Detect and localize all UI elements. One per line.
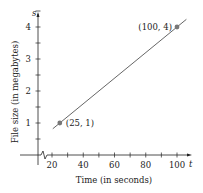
x-axis-var: t [189, 159, 193, 169]
x-axis-title: Time (in seconds) [76, 175, 152, 185]
x-tick-label: 60 [109, 160, 120, 170]
y-tick-label: 1 [26, 118, 31, 128]
y-tick-labels: 1234 [26, 22, 31, 128]
data-point [175, 25, 180, 30]
y-axis-title: File size (in megabytes) [10, 41, 20, 144]
data-point [57, 121, 62, 126]
y-tick-label: 3 [26, 54, 31, 64]
x-tick-label: 40 [78, 160, 89, 170]
data-line [53, 19, 187, 128]
plot-area: (25, 1)(100, 4) [53, 19, 187, 128]
x-tick-labels: 20406080100 [47, 160, 186, 170]
y-axis-var: s [32, 8, 37, 18]
axis-break-icon [41, 151, 47, 159]
x-tick-label: 80 [140, 160, 151, 170]
chart: 20406080100 1234 s t Time (in seconds) F… [0, 0, 203, 193]
y-axis-arrow-icon [37, 12, 40, 17]
point-label: (100, 4) [138, 22, 172, 32]
x-tick-label: 20 [47, 160, 58, 170]
y-tick-label: 2 [26, 86, 31, 96]
x-axis-arrow-icon [187, 154, 192, 157]
y-tick-label: 4 [26, 22, 31, 32]
x-tick-label: 100 [169, 160, 185, 170]
point-label: (25, 1) [66, 118, 94, 128]
